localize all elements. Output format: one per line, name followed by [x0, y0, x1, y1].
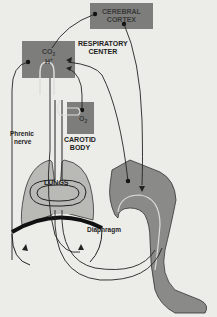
- carotid-body-label: CAROTID BODY: [64, 136, 96, 151]
- leg-shape: [110, 160, 207, 313]
- cerebral-cortex-label: CEREBRAL CORTEX: [102, 8, 141, 23]
- respiratory-label-line1: RESPIRATORY: [78, 40, 128, 47]
- body-label-line2: BODY: [64, 144, 96, 151]
- carotid-label-line1: CAROTID: [64, 136, 96, 143]
- arrow-diaphragm-right: [78, 244, 84, 250]
- o2-subscript: 2: [84, 118, 87, 124]
- cortex-label-line2: CORTEX: [102, 16, 141, 23]
- co2-label: CO2: [42, 48, 55, 57]
- cerebral-label-line1: CEREBRAL: [102, 8, 141, 15]
- diaphragm-label: Diaphragm: [87, 227, 121, 234]
- phrenic-label-line1: Phrenic: [10, 131, 34, 138]
- lungs-label: LUNGS: [44, 179, 69, 186]
- h-superscript: +: [50, 56, 53, 62]
- phrenic-nerve-label: Phrenic nerve: [10, 131, 34, 145]
- h-ion-label: H+: [45, 57, 53, 65]
- nerve-label-line2: nerve: [10, 139, 34, 146]
- arrow-diaphragm-left: [22, 244, 28, 251]
- o2-label: O2: [79, 115, 87, 124]
- center-label-line2: CENTER: [78, 48, 128, 55]
- co2-text: CO: [42, 48, 53, 55]
- respiratory-center-label: RESPIRATORY CENTER: [78, 40, 128, 55]
